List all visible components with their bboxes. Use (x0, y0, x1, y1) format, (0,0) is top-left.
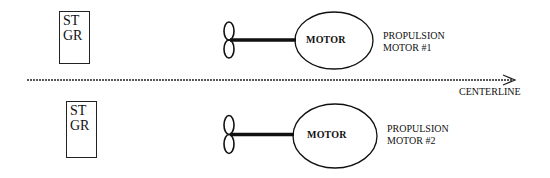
label-line2: MOTOR #1 (383, 42, 445, 54)
motor-2-text: MOTOR (307, 129, 347, 140)
propulsion-motor-2-label: PROPULSION MOTOR #2 (387, 123, 449, 147)
label-line1: PROPULSION (387, 123, 449, 135)
gear-label-line1: ST (70, 103, 89, 118)
propulsion-motor-1-label: PROPULSION MOTOR #1 (383, 30, 445, 54)
starboard-gear-box-1: ST GR (59, 11, 90, 64)
starboard-gear-box-2: ST GR (66, 101, 97, 158)
label-line2: MOTOR #2 (387, 135, 449, 147)
starboard-gear-label-2: ST GR (70, 103, 89, 133)
centerline-label: CENTERLINE (459, 86, 521, 97)
starboard-gear-label-1: ST GR (63, 13, 82, 43)
gear-label-line2: GR (63, 28, 82, 43)
propulsion-diagram: ST GR ST GR MOTOR MOTOR PROPULSION MOTOR… (0, 0, 550, 178)
gear-label-line1: ST (63, 13, 82, 28)
label-line1: PROPULSION (383, 30, 445, 42)
motor-1-text: MOTOR (306, 34, 346, 45)
gear-label-line2: GR (70, 118, 89, 133)
